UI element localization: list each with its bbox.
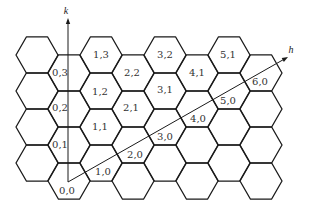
cell-index-label: 1,3 xyxy=(93,49,109,60)
cell-index-label: 4,1 xyxy=(189,67,205,78)
cell-index-label: 1,1 xyxy=(92,121,108,132)
cell-index-label: 0,1 xyxy=(52,139,68,150)
cell-index-label: 3,0 xyxy=(157,131,173,142)
cell-index-label: 1,2 xyxy=(92,86,108,97)
cell-index-label: 1,0 xyxy=(95,166,111,177)
h-axis-arrowhead-icon xyxy=(282,57,288,62)
cell-index-label: 3,2 xyxy=(157,49,173,60)
cell-index-label: 5,1 xyxy=(220,49,236,60)
cell-index-label: 4,0 xyxy=(190,113,206,124)
cell-index-label: 0,0 xyxy=(59,185,75,196)
cell-index-label: 0,2 xyxy=(52,102,68,113)
cell-index-label: 0,3 xyxy=(52,67,68,78)
k-axis-arrowhead-icon xyxy=(66,18,70,24)
hexagonal-lattice-diagram: k h 0,01,02,03,04,05,06,00,10,20,31,11,2… xyxy=(0,0,309,207)
cell-index-label: 2,1 xyxy=(123,102,139,113)
k-axis: k xyxy=(64,5,70,182)
hex-grid xyxy=(16,37,282,199)
cell-labels: 0,01,02,03,04,05,06,00,10,20,31,11,21,32… xyxy=(52,49,268,196)
cell-index-label: 2,2 xyxy=(124,67,140,78)
cell-index-label: 5,0 xyxy=(220,95,236,106)
cell-index-label: 6,0 xyxy=(252,76,268,87)
k-axis-label: k xyxy=(64,5,69,16)
cell-index-label: 2,0 xyxy=(127,149,143,160)
cell-index-label: 3,1 xyxy=(157,84,173,95)
h-axis-label: h xyxy=(289,44,294,55)
